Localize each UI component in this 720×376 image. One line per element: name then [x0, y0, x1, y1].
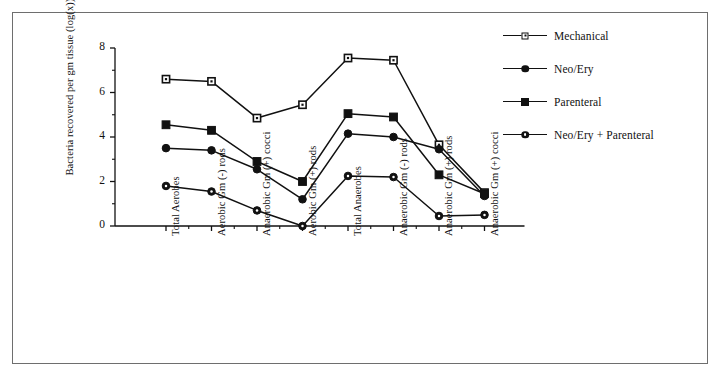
- x-tick-label: Aerobic Gm (-) rods: [216, 148, 227, 236]
- legend-item[interactable]: Neo/Ery: [503, 52, 709, 85]
- legend-label: Mechanical: [547, 30, 609, 42]
- legend-item[interactable]: Mechanical: [503, 19, 709, 52]
- x-axis-ticks: [166, 226, 485, 231]
- legend-item[interactable]: Parenteral: [503, 85, 709, 118]
- x-tick-label: Anaerobic Gm (-) rods: [398, 138, 409, 236]
- y-tick-label: 4: [87, 129, 105, 141]
- x-tick-label: Anaerobic Gm (+) cocci: [261, 131, 272, 236]
- figure-border: Bacteria recovered per gm tissue (log(x)…: [12, 12, 708, 364]
- legend-marker-filled-circle-icon: [503, 62, 547, 76]
- x-tick-label: Anaerobic Gm (+) cocci: [489, 131, 500, 236]
- legend-marker-dot-circle-icon: [503, 128, 547, 142]
- legend-item[interactable]: Neo/Ery + Parenteral: [503, 118, 709, 151]
- chart-legend: MechanicalNeo/EryParenteralNeo/Ery + Par…: [503, 19, 709, 151]
- y-tick-label: 6: [87, 85, 105, 97]
- y-tick-label: 8: [87, 40, 105, 52]
- y-tick-label: 2: [87, 174, 105, 186]
- legend-marker-open-square-icon: [503, 29, 547, 43]
- x-tick-label: Total Anaerobes: [352, 166, 363, 236]
- x-tick-label: Aerobic Gm (+) rods: [307, 146, 318, 236]
- legend-marker-filled-square-icon: [503, 95, 547, 109]
- series-neo-ery-parenteral: [162, 172, 488, 230]
- y-tick-label: 0: [87, 218, 105, 230]
- legend-label: Neo/Ery: [547, 63, 594, 75]
- legend-label: Neo/Ery + Parenteral: [547, 129, 654, 141]
- x-tick-label: Anaerobic Gm (+) rods: [443, 136, 454, 236]
- plot-area: Bacteria recovered per gm tissue (log(x)…: [13, 13, 709, 365]
- legend-label: Parenteral: [547, 96, 602, 108]
- x-tick-label: Total Aerobes: [170, 176, 181, 236]
- y-axis-title: Bacteria recovered per gm tissue (log(x)…: [47, 0, 91, 187]
- y-axis-ticks: [110, 48, 115, 226]
